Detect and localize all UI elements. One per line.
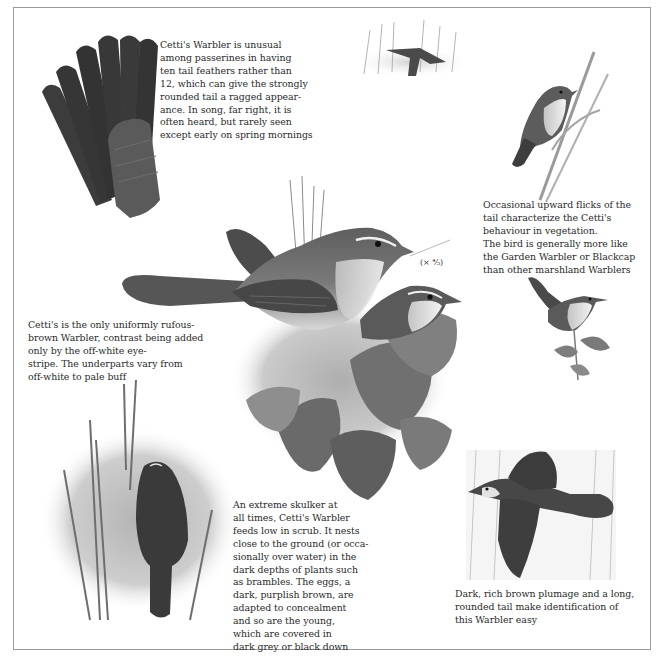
tail-fan-illustration bbox=[42, 35, 160, 218]
bird-in-grass-illustration bbox=[350, 20, 474, 78]
caption-tail-flicks: Occasional upward flicks of the tail cha… bbox=[483, 199, 635, 276]
caption-tail-feathers: Cetti's Warbler is unusual among passeri… bbox=[160, 39, 313, 142]
singing-bird-illustration bbox=[512, 52, 608, 202]
tail-cocked-bird-illustration bbox=[528, 277, 610, 380]
flight-bird-illustration bbox=[466, 450, 616, 580]
nest-bird-illustration bbox=[40, 380, 240, 620]
caption-coloration: Cetti's is the only uniformly rufous- br… bbox=[28, 319, 203, 384]
scale-label: (× ⁴⁄₅) bbox=[420, 258, 443, 267]
caption-skulker: An extreme skulker at all times, Cetti's… bbox=[233, 499, 368, 654]
caption-flight: Dark, rich brown plumage and a long, rou… bbox=[455, 588, 634, 627]
bramble-illustration bbox=[230, 176, 457, 500]
